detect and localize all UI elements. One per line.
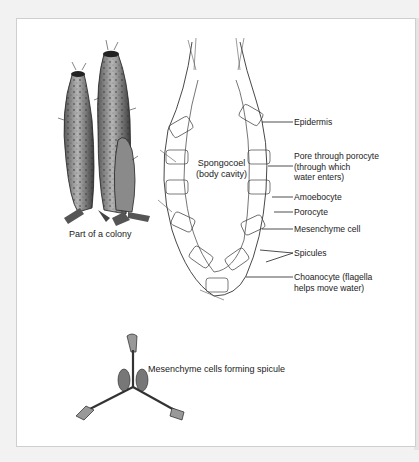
spongocoel-line2: (body cavity) (196, 169, 247, 180)
pore-text-line3: water enters) (294, 172, 379, 183)
label-mesenchyme: Mesenchyme cell (294, 224, 360, 235)
sponge-colony-illustration (58, 40, 150, 226)
label-amoebocyte: Amoebocyte (294, 192, 342, 203)
amoebocyte-text: Amoebocyte (294, 192, 342, 203)
mesenchyme-text: Mesenchyme cell (294, 224, 360, 235)
spicule-caption: Mesenchyme cells forming spicule (148, 364, 285, 375)
spongocoel-line1: Spongocoel (196, 158, 247, 169)
spongocoel-label: Spongocoel (body cavity) (196, 158, 247, 179)
pore-text-line2: (through which (294, 162, 379, 173)
label-pore: Pore through porocyte (through which wat… (294, 151, 379, 183)
choanocyte-text-line2: helps move water) (294, 283, 372, 294)
choanocyte-text-line1: Choanocyte (flagella (294, 272, 372, 283)
leader-lines (246, 122, 293, 277)
epidermis-text: Epidermis (294, 117, 332, 128)
porocyte-text: Porocyte (294, 207, 328, 218)
colony-caption: Part of a colony (69, 229, 132, 240)
label-epidermis: Epidermis (294, 117, 332, 128)
label-porocyte: Porocyte (294, 207, 328, 218)
spicule-illustration (76, 334, 184, 420)
pore-text-line1: Pore through porocyte (294, 151, 379, 162)
spicules-text: Spicules (294, 248, 326, 259)
label-choanocyte: Choanocyte (flagella helps move water) (294, 272, 372, 293)
label-spicules: Spicules (294, 248, 326, 259)
